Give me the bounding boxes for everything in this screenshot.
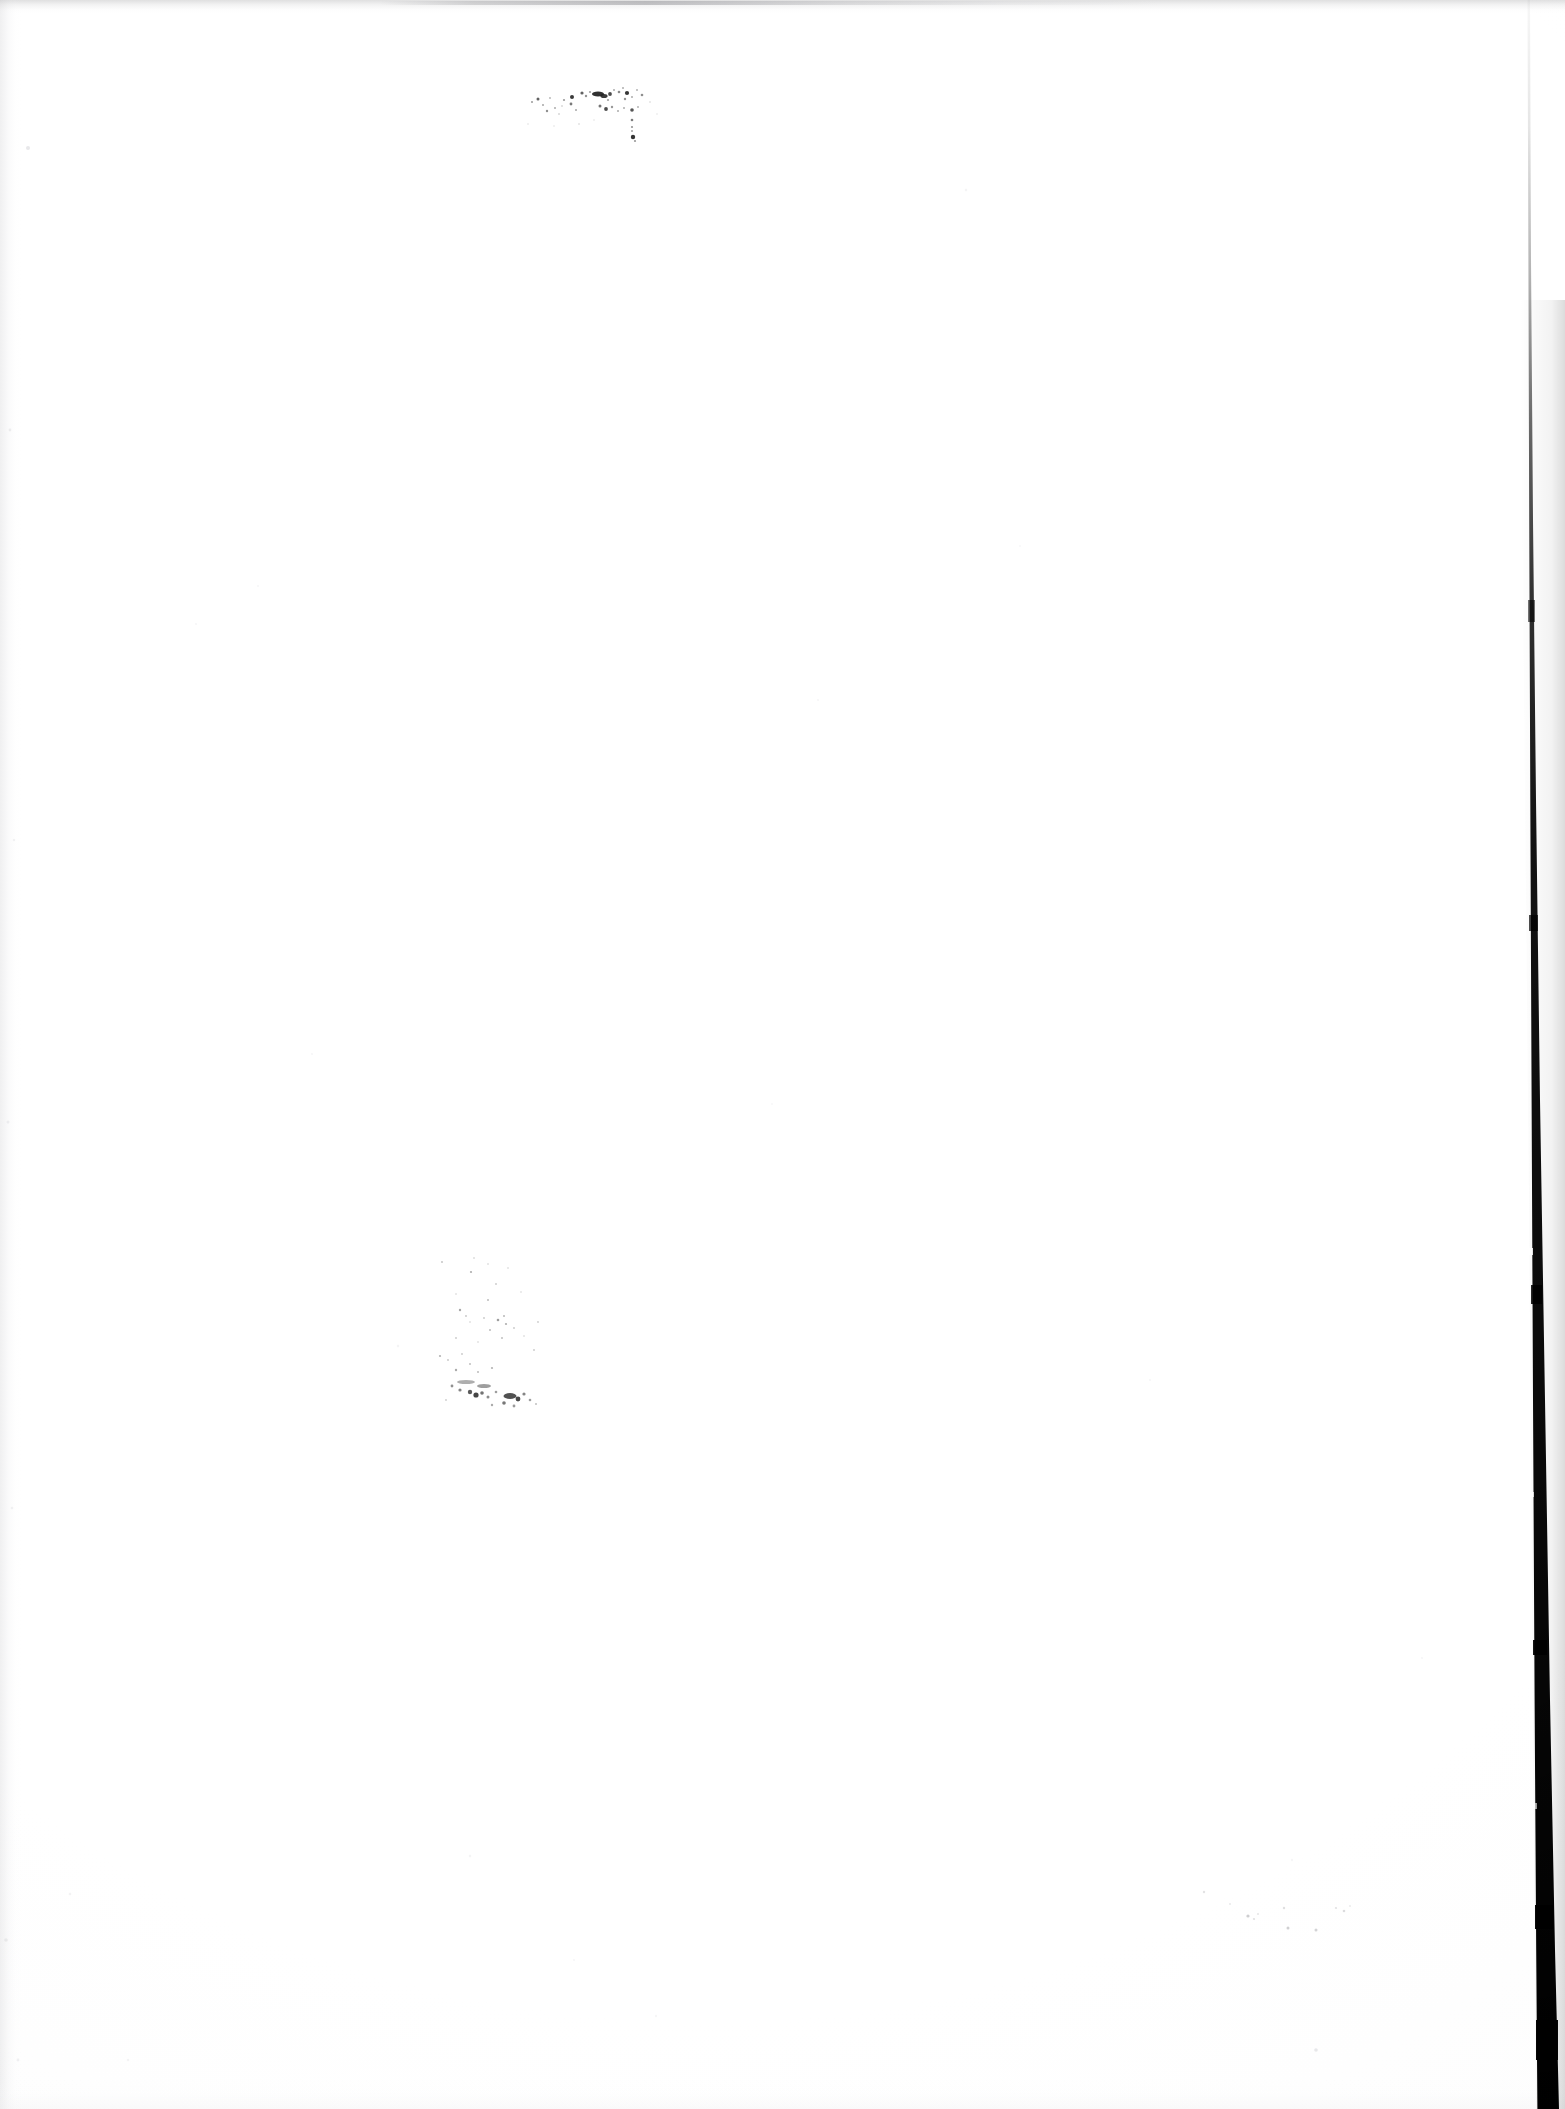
stray-dust-specks	[0, 0, 1565, 2109]
lower-left-speckle-cluster	[426, 1250, 556, 1420]
scan-edge-bottom-wash	[0, 2079, 1565, 2109]
page-edge-shadow	[1500, 0, 1565, 2109]
paper-background	[0, 0, 1565, 2109]
bottom-right-faint-specks	[1186, 1884, 1396, 1954]
top-speckle-cluster	[524, 84, 664, 154]
scan-edge-top-streak	[0, 0, 1565, 14]
scanned-page	[0, 0, 1565, 2109]
scan-edge-left-streak	[0, 0, 22, 2109]
